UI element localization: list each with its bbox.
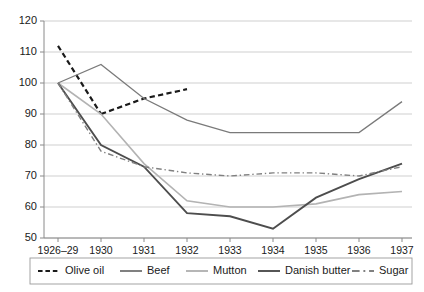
- y-axis-tick-label: 80: [25, 138, 37, 150]
- x-axis-tick-label: 1926–29: [38, 244, 79, 256]
- legend-label-danish-butter: Danish butter: [285, 264, 351, 276]
- series-group: [58, 46, 402, 229]
- gridlines-group: [44, 21, 412, 238]
- legend-label-sugar: Sugar: [379, 264, 409, 276]
- series-line-olive-oil: [101, 89, 187, 114]
- legend-label-mutton: Mutton: [213, 264, 247, 276]
- chart-legend: Olive oilBeefMuttonDanish butterSugar: [30, 258, 412, 284]
- y-axis-tick-label: 100: [19, 76, 37, 88]
- x-axis-tick-label: 1934: [261, 244, 285, 256]
- line-chart-container: 1201101009080706050 1926–291930193119321…: [0, 0, 424, 292]
- y-axis-tick-label: 70: [25, 169, 37, 181]
- y-axis-tick-label: 90: [25, 107, 37, 119]
- series-line-sugar: [58, 83, 402, 176]
- x-axis-tick-label: 1933: [218, 244, 242, 256]
- x-axis-tick-label: 1935: [304, 244, 328, 256]
- y-axis-tick-label: 50: [25, 231, 37, 243]
- series-line-beef: [58, 64, 402, 132]
- y-axis-tick-label: 110: [19, 45, 37, 57]
- x-axis-tick-label: 1936: [347, 244, 371, 256]
- legend-label-beef: Beef: [147, 264, 171, 276]
- x-axis-tick-label: 1930: [89, 244, 113, 256]
- x-axis-labels: 1926–2919301931193219331934193519361937: [38, 244, 414, 256]
- x-axis-tick-label: 1931: [132, 244, 156, 256]
- y-axis-tick-label: 120: [19, 14, 37, 26]
- y-axis-labels: 1201101009080706050: [19, 14, 37, 243]
- legend-label-olive-oil: Olive oil: [65, 264, 104, 276]
- x-axis-tick-label: 1937: [390, 244, 414, 256]
- y-axis-tick-label: 60: [25, 200, 37, 212]
- price-index-line-chart: 1201101009080706050 1926–291930193119321…: [0, 0, 424, 292]
- x-axis-tick-label: 1932: [175, 244, 199, 256]
